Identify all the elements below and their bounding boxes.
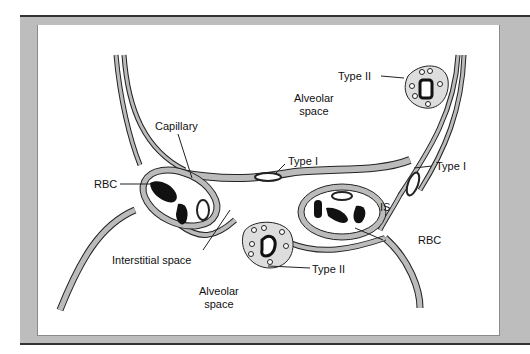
label-rbc-left: RBC	[94, 178, 117, 191]
label-capillary: Capillary	[155, 120, 198, 133]
type-ii-bottom	[242, 222, 293, 268]
alveolar-capillary-diagram	[0, 0, 530, 354]
label-interstitial-space: Interstitial space	[112, 254, 191, 267]
label-line: Alveolar	[199, 285, 239, 298]
label-type-i-right: Type I	[436, 160, 466, 173]
right-capillary	[298, 184, 386, 240]
label-type-ii-bottom: Type II	[312, 263, 345, 276]
type-ii-top	[405, 66, 448, 108]
label-type-i-center: Type I	[288, 155, 318, 168]
label-alveolar-space-top: Alveolar space	[294, 92, 334, 118]
label-rbc-right: RBC	[418, 234, 441, 247]
label-is: IS	[380, 201, 390, 214]
label-line: space	[294, 105, 334, 118]
label-line: space	[199, 298, 239, 311]
label-type-ii-top: Type II	[338, 70, 371, 83]
label-alveolar-space-bottom: Alveolar space	[199, 285, 239, 311]
label-line: Alveolar	[294, 92, 334, 105]
